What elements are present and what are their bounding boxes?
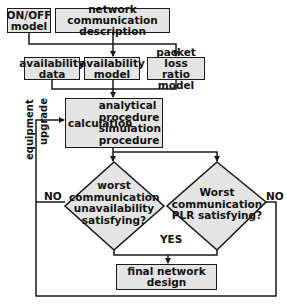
network-description-line2: description: [79, 26, 146, 37]
availability-data-line1: availability: [19, 58, 84, 69]
onoff-model-line1: ON/OFF: [7, 10, 52, 21]
availability-data-box: availability data: [24, 57, 80, 80]
no-right-label: NO: [266, 191, 284, 202]
final-design-label: final network design: [117, 266, 216, 288]
unavail-line1: worst: [69, 180, 159, 192]
method-analytical: analytical: [99, 100, 161, 112]
no-left-label: NO: [44, 191, 62, 202]
plr-line1: Worst: [170, 187, 264, 199]
calculation-box: calculation analytical procedure simulat…: [65, 98, 163, 148]
onoff-model-box: ON/OFF model: [7, 8, 51, 33]
yes-label: YES: [160, 234, 182, 245]
decision-plr-text: Worst communication PLR satisfying?: [170, 187, 264, 222]
plr-model-line1: packet loss: [148, 47, 204, 69]
unavail-line4: satisfying?: [69, 215, 159, 227]
upgrade-label: upgrade: [38, 98, 49, 145]
equipment-label: equipment: [24, 99, 35, 160]
plr-model-line2: ratio model: [148, 69, 204, 91]
connector-lines: [0, 0, 287, 305]
final-design-box: final network design: [116, 264, 217, 290]
method-procedure-2: procedure: [99, 135, 161, 147]
availability-model-box: availability model: [84, 57, 140, 80]
flowchart: ON/OFF model network communication descr…: [0, 0, 287, 305]
plr-line3: PLR satisfying?: [170, 210, 264, 222]
decision-unavailability-text: worst communication unavailability satis…: [69, 180, 159, 226]
plr-model-box: packet loss ratio model: [147, 57, 205, 80]
method-simulation: simulation: [99, 123, 161, 135]
unavail-line3: unavailability: [69, 203, 159, 215]
onoff-model-line2: model: [11, 21, 47, 32]
network-description-line1: network communication: [56, 4, 169, 26]
network-description-box: network communication description: [55, 8, 170, 33]
calculation-methods: analytical procedure simulation procedur…: [99, 100, 161, 146]
availability-model-line2: model: [94, 69, 130, 80]
availability-data-line2: data: [39, 69, 66, 80]
availability-model-line1: availability: [79, 58, 144, 69]
